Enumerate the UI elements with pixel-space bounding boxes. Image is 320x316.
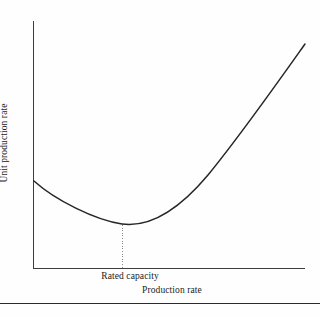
rated-capacity-label: Rated capacity	[70, 272, 190, 282]
figure-container: Unit production rate Rated capacity Prod…	[0, 0, 320, 316]
chart-canvas	[0, 0, 320, 316]
x-axis-label: Production rate	[112, 286, 232, 296]
y-axis-label: Unit production rate	[0, 95, 12, 191]
unit-production-rate-curve	[34, 44, 305, 224]
